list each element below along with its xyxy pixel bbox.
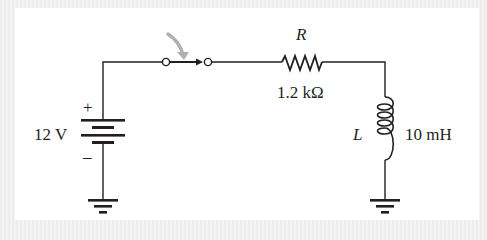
wire-left-top [103, 62, 163, 119]
inductor-symbol [377, 97, 393, 160]
switch [162, 58, 211, 65]
minus-sign: – [82, 147, 92, 166]
inductor-value-label: 10 mH [405, 125, 452, 144]
circuit-diagram: + – 12 V R 1.2 kΩ L 10 mH [0, 0, 487, 236]
ground-left [88, 199, 118, 214]
resistor-value-label: 1.2 kΩ [277, 83, 324, 102]
battery-symbol [81, 119, 125, 144]
switch-arrow-icon [168, 34, 189, 60]
source-voltage-label: 12 V [34, 125, 68, 144]
ground-right [370, 199, 400, 214]
inductor-symbol-label: L [352, 125, 362, 144]
wire-resistor-inductor [322, 62, 385, 97]
resistor-symbol-label: R [295, 25, 307, 44]
resistor-symbol [282, 56, 322, 70]
plus-sign: + [83, 98, 93, 117]
